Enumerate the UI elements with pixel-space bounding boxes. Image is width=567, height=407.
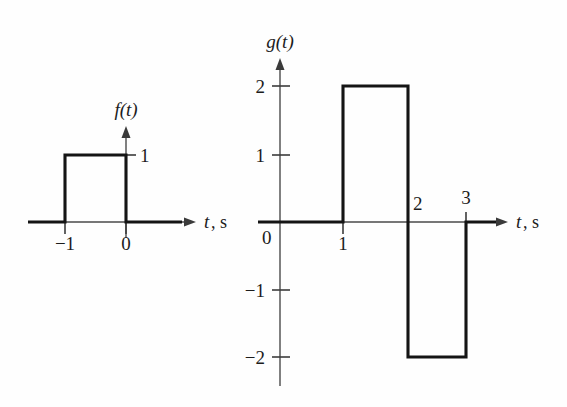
f-x-axis-arrowhead [184,218,196,227]
f-axis-label: f(t) [114,99,137,121]
g-axis-label: g(t) [266,31,293,53]
g-xtick-label-one: 1 [338,233,348,254]
chart-g-of-t: g(t) 2 1 −1 −2 0 1 2 3 t , s [245,31,539,386]
g-ytick-label-minus-one: −1 [245,280,265,301]
g-xtick-label-zero: 0 [262,227,272,248]
f-xtick-label-zero: 0 [121,233,131,254]
g-xtick-label-two: 2 [413,193,423,214]
g-ytick-label-minus-two: −2 [245,347,265,368]
g-ytick-label-two: 2 [256,76,266,97]
chart-f-of-t: f(t) 1 −1 0 t , s [28,99,227,254]
f-y-axis-arrowhead [122,126,131,138]
f-amplitude-label: 1 [140,145,150,166]
f-xtick-label-minus-one: −1 [55,233,75,254]
f-x-axis-variable: t [204,211,210,232]
f-signal-trace [28,155,182,222]
signal-plots-figure: f(t) 1 −1 0 t , s [0,0,567,407]
g-y-axis-arrowhead [276,58,285,70]
g-x-axis-variable: t [516,211,522,232]
g-xtick-label-three: 3 [461,187,471,208]
g-ytick-label-one: 1 [256,145,266,166]
g-x-axis-arrowhead [496,218,508,227]
figure-svg: f(t) 1 −1 0 t , s [0,0,567,407]
f-x-axis-units: , s [211,212,227,232]
g-x-axis-units: , s [523,212,539,232]
